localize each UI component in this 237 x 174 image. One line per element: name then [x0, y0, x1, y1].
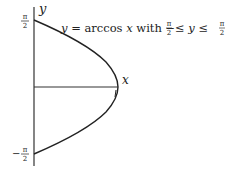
svg-text:2: 2 [23, 155, 27, 163]
svg-text:2: 2 [167, 29, 171, 37]
y-axis-label: y [38, 1, 47, 16]
svg-text:π: π [23, 146, 28, 154]
svg-text:≤ y ≤: ≤ y ≤ [175, 21, 208, 35]
svg-text:2: 2 [220, 29, 224, 37]
chart-title: y = arccos x with − π 2 ≤ y ≤ π 2 [60, 20, 225, 37]
svg-text:y = arccos x with −: y = arccos x with − [60, 21, 175, 35]
svg-text:−: − [12, 148, 20, 159]
chart: y x π 2 − π 2 y = arccos x with − π 2 ≤ … [0, 0, 237, 174]
svg-text:π: π [23, 13, 28, 21]
svg-text:π: π [167, 20, 172, 28]
y-tick-label-bottom: − π 2 [12, 146, 29, 163]
svg-text:π: π [220, 20, 225, 28]
svg-text:2: 2 [23, 22, 27, 30]
y-tick-label-top: π 2 [21, 13, 29, 30]
x-axis-label: x [122, 73, 129, 87]
